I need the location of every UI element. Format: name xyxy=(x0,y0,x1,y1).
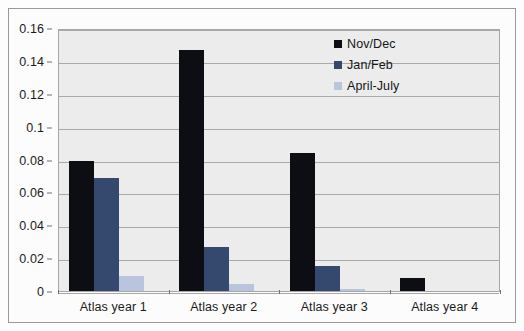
legend-label: Nov/Dec xyxy=(347,37,396,51)
y-tick-mark xyxy=(47,29,52,30)
legend-label: Jan/Feb xyxy=(347,58,393,72)
bar xyxy=(69,161,94,291)
y-tick-mark xyxy=(47,160,52,161)
y-tick-mark xyxy=(47,226,52,227)
y-axis: 00.020.040.060.080.10.120.140.16 xyxy=(0,29,52,292)
bar xyxy=(340,289,365,291)
y-tick-label: 0.06 xyxy=(19,186,44,200)
x-tick-label: Atlas year 1 xyxy=(80,300,147,314)
gridline xyxy=(59,194,499,195)
gridline xyxy=(59,30,499,31)
y-tick-label: 0.1 xyxy=(26,121,44,135)
y-tick-mark xyxy=(47,61,52,62)
y-tick-mark xyxy=(47,259,52,260)
x-tick-label: Atlas year 3 xyxy=(301,300,368,314)
x-tick-label: Atlas year 4 xyxy=(411,300,478,314)
x-tick-label: Atlas year 2 xyxy=(190,300,257,314)
bar xyxy=(400,278,425,291)
x-tick-mark xyxy=(279,290,280,294)
y-tick-label: 0 xyxy=(37,285,44,299)
bar xyxy=(229,284,254,291)
y-tick-label: 0.16 xyxy=(19,22,44,36)
legend-swatch-icon xyxy=(334,40,342,48)
gridline xyxy=(59,227,499,228)
gridline xyxy=(59,129,499,130)
y-tick-label: 0.02 xyxy=(19,252,44,266)
legend-label: April-July xyxy=(347,79,399,93)
x-tick-mark xyxy=(500,290,501,294)
bar xyxy=(179,50,204,291)
x-tick-mark xyxy=(58,290,59,294)
x-axis: Atlas year 1Atlas year 2Atlas year 3Atla… xyxy=(58,294,500,324)
y-tick-label: 0.12 xyxy=(19,88,44,102)
legend-swatch-icon xyxy=(334,82,342,90)
legend-item: Jan/Feb xyxy=(334,54,446,75)
gridline xyxy=(59,162,499,163)
bar xyxy=(119,276,144,291)
legend-item: Nov/Dec xyxy=(334,33,446,54)
legend-swatch-icon xyxy=(334,61,342,69)
bar-chart-figure: 00.020.040.060.080.10.120.140.16 Atlas y… xyxy=(0,0,524,331)
y-tick-mark xyxy=(47,193,52,194)
x-tick-mark xyxy=(390,290,391,294)
y-tick-label: 0.14 xyxy=(19,55,44,69)
gridline xyxy=(59,260,499,261)
chart-legend: Nov/DecJan/FebApril-July xyxy=(334,33,446,96)
y-tick-label: 0.04 xyxy=(19,219,44,233)
y-tick-mark xyxy=(47,292,52,293)
bar xyxy=(290,153,315,291)
bar xyxy=(94,178,119,291)
bar xyxy=(315,266,340,291)
y-tick-mark xyxy=(47,127,52,128)
legend-item: April-July xyxy=(334,75,446,96)
y-tick-mark xyxy=(47,94,52,95)
x-tick-mark xyxy=(169,290,170,294)
bar xyxy=(204,247,229,291)
y-tick-label: 0.08 xyxy=(19,154,44,168)
